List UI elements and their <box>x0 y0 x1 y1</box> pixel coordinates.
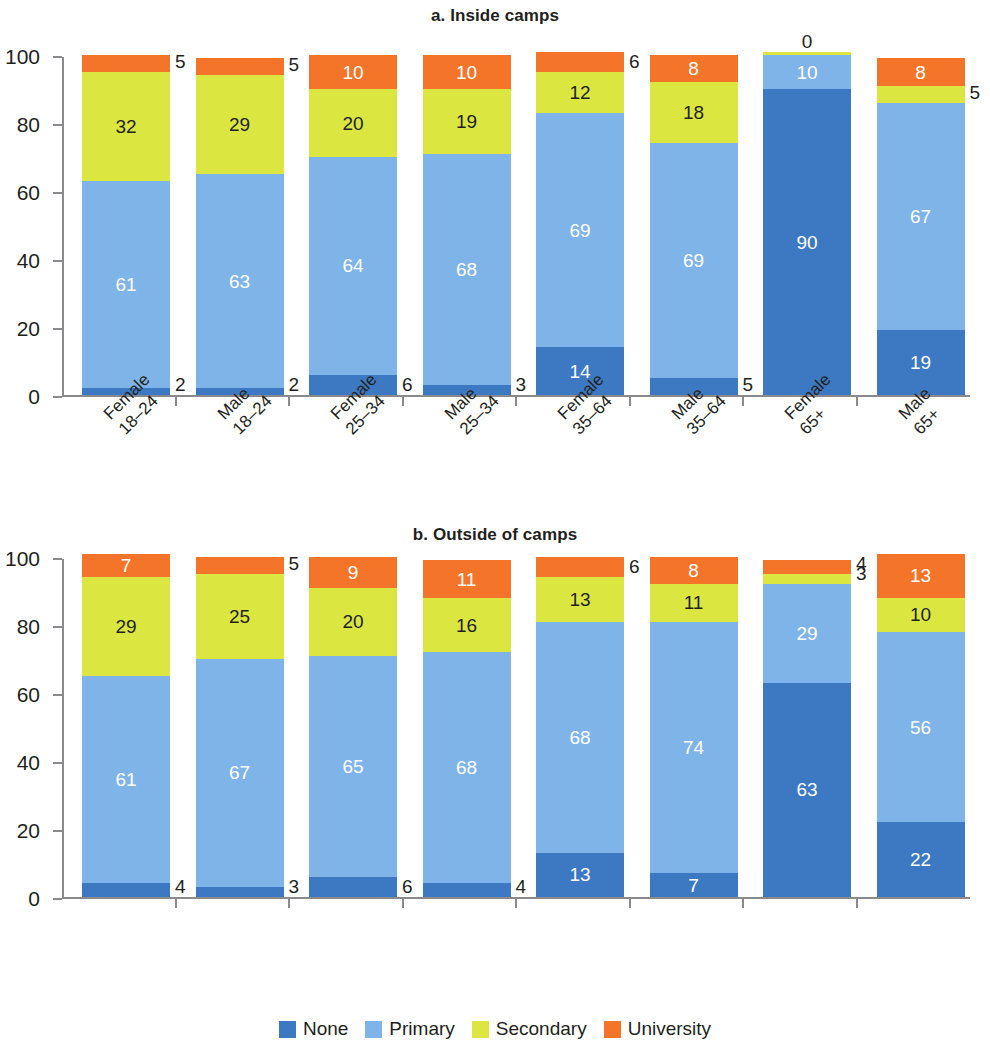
bar-segment-secondary[interactable]: 20 <box>309 89 397 157</box>
bar-segment-secondary[interactable]: 3 <box>763 574 851 584</box>
bar-value-label: 19 <box>456 112 477 131</box>
bar-value-label: 63 <box>229 272 250 291</box>
bar-segment-university[interactable]: 8 <box>877 58 965 85</box>
y-axis-tick-label: 40 <box>17 751 40 775</box>
bar-value-label: 19 <box>910 353 931 372</box>
bar-segment-university[interactable]: 11 <box>423 560 511 597</box>
x-axis-tick <box>402 397 404 406</box>
bar-segment-primary[interactable]: 10 <box>763 55 851 89</box>
legend-swatch-icon <box>365 1021 382 1038</box>
bar-value-label: 68 <box>456 260 477 279</box>
bar-segment-secondary[interactable]: 29 <box>82 577 170 676</box>
bar-value-label: 68 <box>569 728 590 747</box>
bar-segment-primary[interactable]: 56 <box>877 632 965 822</box>
legend-item-none[interactable]: None <box>279 1018 348 1040</box>
y-axis-tick: 40 <box>53 762 62 764</box>
bar-segment-university[interactable]: 8 <box>650 557 738 584</box>
bar-segment-secondary[interactable]: 10 <box>877 598 965 632</box>
bar-segment-primary[interactable]: 68 <box>423 652 511 883</box>
y-axis-tick-label: 60 <box>17 181 40 205</box>
bar-segment-secondary[interactable]: 13 <box>536 577 624 621</box>
bar-segment-secondary[interactable]: 29 <box>196 75 284 174</box>
stacked-bar[interactable]: 818695 <box>650 55 738 395</box>
bar-segment-secondary[interactable]: 32 <box>82 72 170 181</box>
x-axis-tick <box>856 397 858 406</box>
bar-segment-none[interactable]: 4 <box>423 883 511 897</box>
bar-segment-university[interactable]: 8 <box>650 55 738 82</box>
legend-item-secondary[interactable]: Secondary <box>472 1018 587 1040</box>
x-axis-tick <box>402 899 404 908</box>
stacked-bar[interactable]: 811747 <box>650 557 738 897</box>
bar-segment-none[interactable]: 63 <box>763 683 851 897</box>
bar-segment-secondary[interactable]: 11 <box>650 584 738 621</box>
y-axis-tick: 100 <box>53 558 62 560</box>
stacked-bar[interactable]: 920656 <box>309 557 397 897</box>
bar-segment-none[interactable]: 4 <box>82 883 170 897</box>
bar-segment-secondary[interactable]: 16 <box>423 598 511 652</box>
stacked-bar[interactable]: 6136813 <box>536 557 624 897</box>
bar-segment-secondary[interactable]: 12 <box>536 72 624 113</box>
bar-value-label: 74 <box>683 738 704 757</box>
bar-segment-primary[interactable]: 68 <box>536 622 624 853</box>
bar-segment-primary[interactable]: 64 <box>309 157 397 375</box>
bar-segment-primary[interactable]: 29 <box>763 584 851 683</box>
stacked-bar[interactable]: 529632 <box>196 58 284 395</box>
bar-value-label: 7 <box>688 876 699 895</box>
stacked-bar[interactable]: 6126914 <box>536 52 624 395</box>
bar-segment-university[interactable]: 6 <box>536 557 624 577</box>
legend-item-primary[interactable]: Primary <box>365 1018 454 1040</box>
bar-segment-primary[interactable]: 74 <box>650 622 738 874</box>
panel-b-title: b. Outside of camps <box>0 520 990 545</box>
stacked-bar[interactable]: 1020646 <box>309 55 397 395</box>
bar-value-label: 65 <box>342 757 363 776</box>
stacked-bar[interactable]: 1116684 <box>423 560 511 897</box>
bar-segment-none[interactable]: 7 <box>650 873 738 897</box>
bar-segment-primary[interactable]: 67 <box>196 659 284 887</box>
bar-segment-primary[interactable]: 61 <box>82 676 170 883</box>
bar-value-label: 90 <box>796 233 817 252</box>
bar-segment-university[interactable]: 5 <box>196 557 284 574</box>
bar-segment-university[interactable]: 9 <box>309 557 397 588</box>
bar-value-label: 12 <box>569 83 590 102</box>
stacked-bar[interactable]: 525673 <box>196 557 284 897</box>
bar-value-label: 61 <box>115 770 136 789</box>
bar-segment-secondary[interactable]: 5 <box>877 86 965 103</box>
bar-segment-university[interactable]: 5 <box>82 55 170 72</box>
bar-segment-none[interactable]: 3 <box>196 887 284 897</box>
bar-segment-none[interactable]: 6 <box>309 877 397 897</box>
bar-value-label: 4 <box>516 877 527 896</box>
y-axis-tick: 20 <box>53 830 62 832</box>
bar-value-label: 68 <box>456 758 477 777</box>
bar-segment-primary[interactable]: 67 <box>877 103 965 331</box>
stacked-bar[interactable]: 729614 <box>82 554 170 897</box>
stacked-bar[interactable]: 01090 <box>763 52 851 395</box>
stacked-bar[interactable]: 856719 <box>877 58 965 395</box>
bar-segment-university[interactable]: 5 <box>196 58 284 75</box>
bar-segment-primary[interactable]: 65 <box>309 656 397 877</box>
bar-value-label: 9 <box>348 563 359 582</box>
bar-segment-university[interactable]: 10 <box>423 55 511 89</box>
bar-segment-university[interactable]: 10 <box>309 55 397 89</box>
bar-segment-secondary[interactable]: 19 <box>423 89 511 154</box>
bar-segment-secondary[interactable]: 25 <box>196 574 284 659</box>
y-axis-tick: 80 <box>53 626 62 628</box>
bar-segment-none[interactable]: 13 <box>536 853 624 897</box>
stacked-bar[interactable]: 13105622 <box>877 554 965 897</box>
bar-segment-university[interactable]: 7 <box>82 554 170 578</box>
bar-segment-secondary[interactable]: 20 <box>309 588 397 656</box>
stacked-bar[interactable]: 532612 <box>82 55 170 395</box>
bar-value-label: 8 <box>688 561 699 580</box>
legend-label: Primary <box>389 1018 454 1040</box>
bar-segment-university[interactable]: 4 <box>763 560 851 574</box>
legend-item-university[interactable]: University <box>604 1018 711 1040</box>
bar-segment-primary[interactable]: 69 <box>650 143 738 378</box>
bar-value-label: 69 <box>569 221 590 240</box>
bar-segment-university[interactable]: 13 <box>877 554 965 598</box>
bar-segment-primary[interactable]: 69 <box>536 113 624 348</box>
stacked-bar[interactable]: 432963 <box>763 560 851 897</box>
bar-segment-university[interactable]: 6 <box>536 52 624 72</box>
y-axis-line <box>62 559 64 899</box>
bar-segment-none[interactable]: 22 <box>877 822 965 897</box>
stacked-bar[interactable]: 1019683 <box>423 55 511 395</box>
bar-segment-secondary[interactable]: 18 <box>650 82 738 143</box>
